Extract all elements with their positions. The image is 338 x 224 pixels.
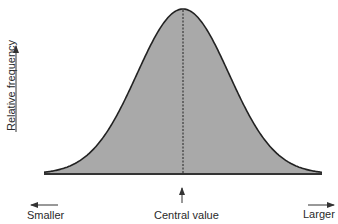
y-axis-label: Relative frequency bbox=[5, 40, 17, 131]
central-value-label: Central value bbox=[154, 209, 219, 221]
normal-distribution-diagram: Relative frequency Smaller Central value… bbox=[0, 0, 338, 224]
larger-label: Larger bbox=[303, 208, 335, 220]
smaller-label: Smaller bbox=[27, 209, 64, 221]
bell-curve-graphic bbox=[0, 0, 338, 224]
